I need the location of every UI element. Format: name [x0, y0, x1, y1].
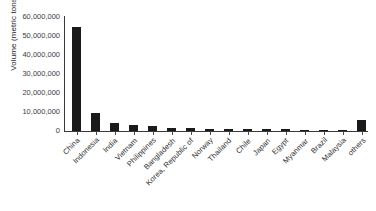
bar-chart: Volume (metric tons) 60,000,00050,000,00… [0, 0, 376, 211]
bar-slot [257, 17, 276, 131]
bar-slot [295, 17, 314, 131]
bar [338, 130, 347, 131]
bar [319, 130, 328, 131]
y-tick-label: 40,000,000 [0, 51, 60, 59]
y-tick-label: 20,000,000 [0, 89, 60, 97]
bar [205, 129, 214, 131]
x-tick-mark [324, 132, 325, 135]
x-tick-mark [191, 132, 192, 135]
bar-slot [162, 17, 181, 131]
bar-slot [143, 17, 162, 131]
x-tick-mark [362, 132, 363, 135]
bar [167, 128, 176, 131]
x-tick-mark [153, 132, 154, 135]
bar-slot [200, 17, 219, 131]
bar [72, 27, 81, 132]
x-axis-line [64, 131, 368, 132]
x-tick-mark [77, 132, 78, 135]
x-tick-mark [267, 132, 268, 135]
x-tick-mark [115, 132, 116, 135]
bar-slot [314, 17, 333, 131]
x-tick-mark [134, 132, 135, 135]
bar [129, 125, 138, 131]
x-tick-mark [343, 132, 344, 135]
x-tick-mark [305, 132, 306, 135]
plot-area [64, 17, 368, 131]
x-tick-mark [210, 132, 211, 135]
bar [357, 120, 366, 131]
bar [243, 129, 252, 131]
y-tick-label: 0 [0, 127, 60, 135]
bar-slot [238, 17, 257, 131]
y-tick-label: 50,000,000 [0, 32, 60, 40]
bar [186, 128, 195, 131]
x-category-label: others [346, 136, 368, 158]
x-tick-mark [96, 132, 97, 135]
bar-slot [181, 17, 200, 131]
x-tick-mark [286, 132, 287, 135]
y-tick-label: 10,000,000 [0, 108, 60, 116]
bar-slot [276, 17, 295, 131]
bar [300, 130, 309, 131]
bar-slot [67, 17, 86, 131]
bar [91, 113, 100, 131]
x-tick-mark [248, 132, 249, 135]
bar [281, 129, 290, 131]
x-tick-mark [229, 132, 230, 135]
x-category-label: Japan [251, 136, 272, 157]
bar-slot [105, 17, 124, 131]
bar [262, 129, 271, 131]
bar-slot [333, 17, 352, 131]
bar [224, 129, 233, 131]
y-tick-label: 30,000,000 [0, 70, 60, 78]
bar-slot [352, 17, 371, 131]
bar [148, 126, 157, 131]
bar-slot [124, 17, 143, 131]
bar-slot [219, 17, 238, 131]
bar-slot [86, 17, 105, 131]
y-tick-label: 60,000,000 [0, 13, 60, 21]
x-tick-mark [172, 132, 173, 135]
x-category-label: Chile [234, 136, 253, 155]
bar [110, 123, 119, 131]
